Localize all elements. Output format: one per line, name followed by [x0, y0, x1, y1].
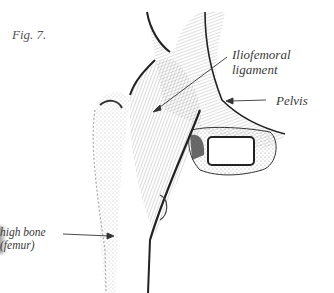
thigh-label-line1: high bone	[0, 226, 46, 239]
iliofemoral-ligament-label: Iliofemoral ligament	[232, 47, 291, 77]
iliofemoral-label-line1: Iliofemoral	[232, 47, 291, 62]
thigh-bone-label: high bone (femur)	[0, 226, 46, 252]
figure-number: Fig. 7.	[12, 28, 46, 41]
hip-illustration	[0, 0, 334, 293]
thigh-label-line2: (femur)	[0, 239, 46, 252]
iliofemoral-label-line2: ligament	[232, 62, 291, 77]
femur-drawing	[93, 92, 130, 293]
pelvis-label: Pelvis	[276, 94, 308, 107]
iliofemoral-ligament-drawing	[130, 59, 201, 293]
anatomical-figure: Fig. 7. Iliofemoral ligament Pelvis high…	[0, 0, 334, 293]
